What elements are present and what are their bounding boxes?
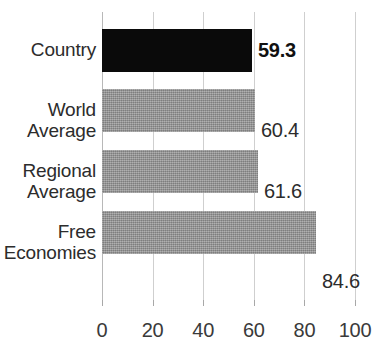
bar-free-economies xyxy=(102,211,316,254)
gridline-100 xyxy=(355,12,356,300)
bar-chart: 0 20 40 60 80 100 Country World Average … xyxy=(0,0,392,356)
category-label-line: Regional xyxy=(0,160,96,181)
category-label-regional-average: Regional Average xyxy=(0,160,96,202)
tick-80 xyxy=(304,300,305,306)
category-label-line: Average xyxy=(0,181,96,202)
category-label-free-economies: Free Economies xyxy=(0,221,96,263)
value-label-world-average: 60.4 xyxy=(261,120,299,140)
axis-tick-label-100: 100 xyxy=(339,320,371,340)
category-label-line: Average xyxy=(0,120,96,141)
tick-60 xyxy=(254,300,255,306)
axis-tick-label-60: 60 xyxy=(243,320,265,340)
plot-area: 0 20 40 60 80 100 xyxy=(102,12,355,300)
tick-20 xyxy=(153,300,154,306)
value-label-regional-average: 61.6 xyxy=(264,181,302,201)
value-label-country: 59.3 xyxy=(258,40,296,60)
category-label-line: Free xyxy=(0,221,96,242)
category-label-world-average: World Average xyxy=(0,99,96,141)
tick-40 xyxy=(203,300,204,306)
category-label-line: Country xyxy=(0,39,96,60)
category-label-country: Country xyxy=(0,39,96,60)
bar-regional-average xyxy=(102,150,258,193)
gridline-80 xyxy=(304,12,305,300)
category-label-line: World xyxy=(0,99,96,120)
bar-country xyxy=(102,29,252,72)
axis-tick-label-40: 40 xyxy=(192,320,214,340)
axis-tick-label-20: 20 xyxy=(142,320,164,340)
value-label-free-economies: 84.6 xyxy=(322,271,360,291)
bar-world-average xyxy=(102,89,255,132)
tick-0 xyxy=(102,300,103,306)
axis-tick-label-0: 0 xyxy=(97,320,108,340)
category-label-line: Economies xyxy=(0,242,96,263)
axis-tick-label-80: 80 xyxy=(294,320,316,340)
tick-100 xyxy=(355,300,356,306)
